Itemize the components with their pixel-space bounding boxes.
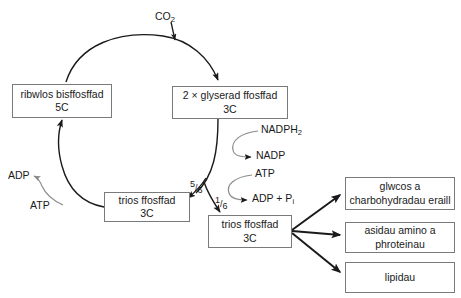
node-ribwlos-bisffosffad: ribwlos bisffosffad 5C (12, 84, 112, 118)
arrow-trios-to-lipidau (292, 233, 340, 272)
node-asidau-amino-proteinau: asidau amino a phroteinau (345, 222, 455, 253)
arc-trios-to-ribwlos (59, 120, 104, 207)
node-trios-left-line2: 3C (140, 207, 153, 220)
arrow-atp-to-adp-pi (228, 175, 252, 200)
label-co2: CO2 (155, 11, 175, 24)
node-asidau-line2: phroteinau (375, 238, 425, 251)
node-lipidau: lipidau (345, 262, 455, 293)
node-glyserad-line1: 2 × glyserad ffosffad (183, 89, 277, 102)
node-trios-ffosffad-right: trios ffosffad 3C (208, 215, 292, 248)
label-adp-left: ADP (8, 170, 30, 182)
arc-ribwlos-to-glyserad (66, 35, 218, 82)
node-lipidau-line1: lipidau (385, 271, 415, 284)
node-trios-right-line1: trios ffosffad (222, 218, 279, 231)
arrow-nadph2-to-nadp (233, 131, 258, 157)
label-atp-right: ATP (255, 168, 275, 180)
node-glyserad-ffosffad: 2 × glyserad ffosffad 3C (172, 86, 288, 119)
node-asidau-line1: asidau amino a (364, 224, 435, 237)
node-glwcos-line2: charbohydradau eraill (350, 194, 451, 207)
label-atp-left: ATP (30, 200, 50, 212)
node-trios-left-line1: trios ffosffad (119, 194, 176, 207)
label-nadp: NADP (256, 150, 285, 162)
label-fraction-five-sixths: 5/6 (190, 179, 203, 195)
node-trios-right-line2: 3C (243, 232, 256, 245)
node-ribwlos-line2: 5C (55, 101, 68, 114)
label-fraction-one-sixth: 1/6 (215, 195, 228, 211)
node-ribwlos-line1: ribwlos bisffosffad (20, 88, 103, 101)
diagram-canvas: CO2 ribwlos bisffosffad 5C 2 × glyserad … (0, 0, 461, 298)
arrow-trios-to-asidau (292, 231, 340, 235)
node-glwcos-charbohydradau: glwcos a charbohydradau eraill (345, 177, 455, 210)
connector-layer (0, 0, 461, 298)
node-trios-ffosffad-left: trios ffosffad 3C (104, 192, 190, 222)
label-adp-pi: ADP + Pi (252, 193, 294, 206)
arrow-trios-to-glwcos (292, 195, 340, 230)
label-nadph2: NADPH2 (261, 124, 302, 137)
node-glwcos-line1: glwcos a (380, 180, 421, 193)
node-glyserad-line2: 3C (223, 103, 236, 116)
